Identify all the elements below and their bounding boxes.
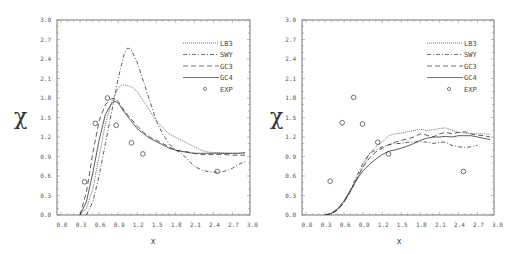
y-tick-label: 2.1 [285,75,296,82]
x-tick-label: 2.7 [473,221,484,228]
y-tick-label: 2.4 [285,55,296,62]
y-tick-label: 0.6 [40,172,51,179]
exp-data-point [93,121,98,126]
series-swy-line [325,142,477,215]
exp-data-point [105,96,110,101]
x-tick-label: 1.5 [152,221,163,228]
legend-label: GC3 [220,63,233,71]
x-tick-label: 1.5 [397,221,408,228]
exp-data-point [141,152,146,157]
x-tick-label: 2.4 [209,221,220,228]
y-tick-label: 0.0 [285,211,296,218]
x-tick-label: 0.0 [57,221,68,228]
legend-label: LB3 [464,40,477,48]
y-tick-label: 2.7 [285,36,296,43]
x-tick-label: 3.0 [247,221,258,228]
exp-data-point [82,180,87,185]
x-tick-label: 3.0 [492,221,503,228]
series-gc3-line [325,132,490,215]
x-axis-title: x [151,237,156,246]
x-tick-label: 1.2 [133,221,144,228]
y-tick-label: 2.7 [40,36,51,43]
legend: LB3SWYGC3GC4EXP [427,40,477,94]
y-tick-label: 1.5 [40,114,51,121]
x-tick-label: 1.8 [171,221,182,228]
exp-data-point [386,152,391,157]
exp-data-point [360,122,365,127]
plot-frame [302,20,494,215]
exp-data-point [351,95,356,100]
right-chart-panel: 0.00.30.60.91.21.51.82.12.42.73.00.00.30… [270,16,503,246]
x-tick-label: 0.6 [95,221,106,228]
x-tick-label: 2.4 [454,221,465,228]
legend-label: GC3 [464,63,477,71]
y-tick-label: 0.9 [285,153,296,160]
y-axis-title-chi: χ [14,104,27,129]
y-tick-label: 1.2 [40,133,51,140]
legend-label: EXP [464,86,477,94]
x-tick-label: 0.9 [114,221,125,228]
exp-data-point [114,123,119,128]
legend-exp-marker [203,87,206,90]
figure: 0.00.30.60.91.21.51.82.12.42.73.00.00.30… [0,0,528,254]
x-tick-label: 1.2 [378,221,389,228]
x-tick-label: 2.7 [228,221,239,228]
y-tick-label: 0.9 [40,153,51,160]
x-tick-label: 1.8 [416,221,427,228]
series-gc4-line [325,136,490,215]
series-gc4-line [80,101,245,215]
y-tick-label: 2.4 [40,55,51,62]
legend-label: SWY [464,51,477,59]
exp-data-point [340,120,345,125]
left-chart-panel: 0.00.30.60.91.21.51.82.12.42.73.00.00.30… [14,16,258,246]
y-tick-label: 0.3 [40,192,51,199]
legend-label: GC4 [464,74,477,82]
legend-label: EXP [220,86,233,94]
legend-label: SWY [220,51,233,59]
series-lb3-line [325,128,490,215]
y-tick-label: 2.1 [40,75,51,82]
y-tick-label: 1.2 [285,133,296,140]
legend-label: LB3 [220,40,233,48]
exp-data-point [328,179,333,184]
x-tick-label: 0.3 [321,221,332,228]
y-tick-label: 1.8 [285,94,296,101]
exp-data-point [461,169,466,174]
x-tick-label: 0.0 [302,221,313,228]
x-tick-label: 2.1 [435,221,446,228]
y-axis-title-chi: χ [270,104,283,129]
exp-data-point [215,169,220,174]
y-tick-label: 1.8 [40,94,51,101]
y-tick-label: 3.0 [285,16,296,23]
legend: LB3SWYGC3GC4EXP [183,40,233,94]
x-tick-label: 0.9 [359,221,370,228]
y-tick-label: 0.0 [40,211,51,218]
x-axis-title: x [397,237,402,246]
x-tick-label: 0.3 [76,221,87,228]
exp-data-point [375,140,380,145]
x-tick-label: 2.1 [190,221,201,228]
exp-data-point [129,141,134,146]
x-tick-label: 0.6 [340,221,351,228]
y-tick-label: 0.3 [285,192,296,199]
charts-canvas: 0.00.30.60.91.21.51.82.12.42.73.00.00.30… [0,0,528,254]
y-tick-label: 3.0 [40,16,51,23]
series-lb3-line [80,85,245,215]
y-tick-label: 0.6 [285,172,296,179]
legend-label: GC4 [220,74,233,82]
legend-exp-marker [447,87,450,90]
y-tick-label: 1.5 [285,114,296,121]
plot-frame [57,20,250,215]
